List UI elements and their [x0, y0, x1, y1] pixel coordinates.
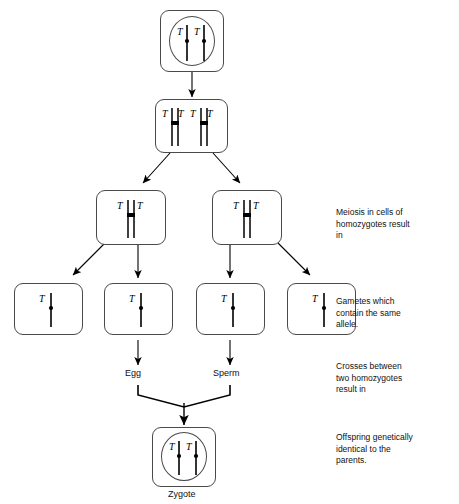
- annotation-offspring: Offspring genetically identical to the p…: [336, 432, 456, 467]
- allele-label-parent-right: T: [194, 27, 200, 37]
- chromosome-zygote-right: [193, 441, 199, 475]
- allele-label-gamete-2: T: [129, 294, 135, 304]
- arrow-replicated-to-daughter-left: [143, 153, 170, 183]
- caption-zygote: Zygote: [168, 489, 196, 500]
- caption-sperm: Sperm: [213, 368, 240, 379]
- cell-daughter-right: T T: [212, 190, 282, 245]
- nucleus-parent: [169, 16, 215, 66]
- annotation-crosses: Crosses between two homozygotes result i…: [336, 361, 456, 396]
- allele-label-parent-left: T: [177, 27, 183, 37]
- cell-gamete-1: T: [14, 283, 83, 335]
- chromosome-parent-left: [184, 25, 190, 61]
- allele-label-daughterL-right: T: [137, 201, 143, 211]
- arrow-daughter-right-to-gamete-4: [278, 243, 310, 275]
- allele-label-repl-3: T: [190, 109, 196, 119]
- chromosome-gamete-2: [138, 293, 144, 327]
- cell-replicated: T T T T: [155, 99, 228, 153]
- chromosome-daughter-right: [241, 200, 253, 238]
- arrow-replicated-to-daughter-right: [213, 153, 240, 183]
- allele-label-repl-1: T: [162, 109, 168, 119]
- arrow-daughter-left-to-gamete-1: [73, 243, 105, 275]
- allele-label-daughterR-right: T: [253, 201, 259, 211]
- chromosome-replicated-right: [198, 108, 210, 146]
- connector-arrows: [0, 0, 459, 504]
- chromosome-gamete-3: [230, 293, 236, 327]
- caption-egg: Egg: [125, 368, 141, 379]
- allele-label-gamete-3: T: [221, 294, 227, 304]
- nucleus-zygote: [161, 432, 207, 481]
- allele-label-zygote-left: T: [169, 442, 175, 452]
- chromosome-replicated-left: [169, 108, 181, 146]
- cell-gamete-2: T: [104, 283, 173, 335]
- chromosome-gamete-4: [321, 293, 327, 327]
- allele-label-daughterR-left: T: [233, 201, 239, 211]
- cell-daughter-left: T T: [96, 190, 166, 245]
- cell-zygote: T T: [152, 427, 216, 487]
- cell-parent: T T: [160, 10, 224, 72]
- meiosis-diagram: T T T T T T: [0, 0, 459, 504]
- fusion-bracket: [138, 385, 230, 407]
- cell-gamete-3: T: [196, 283, 265, 335]
- allele-label-daughterL-left: T: [117, 201, 123, 211]
- annotation-meiosis: Meiosis in cells of homozygotes result i…: [336, 207, 456, 242]
- annotation-gametes: Gametes which contain the same allele.: [336, 296, 456, 331]
- allele-label-gamete-4: T: [312, 294, 318, 304]
- chromosome-parent-right: [201, 25, 207, 61]
- chromosome-daughter-left: [125, 200, 137, 238]
- chromosome-gamete-1: [48, 293, 54, 327]
- allele-label-zygote-right: T: [186, 442, 192, 452]
- allele-label-gamete-1: T: [39, 294, 45, 304]
- chromosome-zygote-left: [176, 441, 182, 475]
